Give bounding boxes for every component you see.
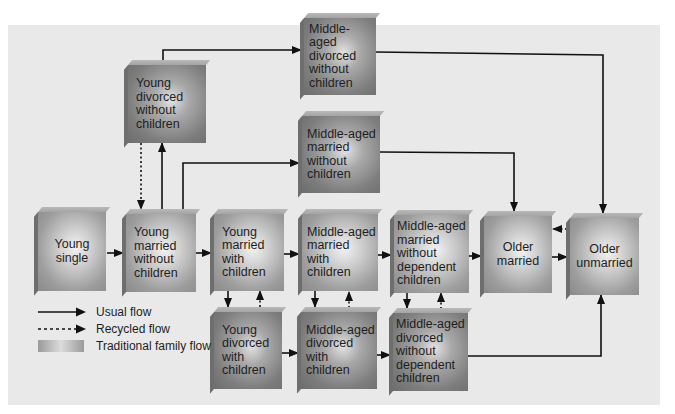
node-label: Young divorced with children: [214, 324, 269, 378]
node-young-married-without-children: Young married without children: [122, 209, 196, 292]
node-label: Middle-aged married with children: [302, 226, 376, 280]
node-label: Middle-aged married without children: [302, 128, 376, 182]
legend-recycled-flow: Recycled flow: [38, 320, 211, 337]
gradient-swatch-icon: [38, 340, 84, 352]
node-middle-aged-married-without-dependent-children: Middle-aged married without dependent ch…: [390, 210, 469, 293]
legend-label: Usual flow: [96, 305, 151, 319]
node-label: Middle-aged divorced with children: [301, 324, 375, 378]
node-label: Young divorced without children: [128, 77, 183, 131]
solid-arrow-icon: [38, 306, 88, 318]
node-label: Young married without children: [126, 226, 178, 280]
node-label: Older married: [484, 241, 552, 268]
node-young-single: Young single: [34, 207, 106, 291]
legend: Usual flow Recycled flow Traditional fam…: [38, 303, 211, 354]
node-middle-aged-married-with-children: Middle-aged married with children: [298, 209, 378, 291]
node-label: Young single: [38, 238, 106, 265]
node-label: Young married with children: [214, 226, 266, 280]
node-label: Middle-aged divorced without children: [304, 23, 376, 91]
node-label: Middle-aged divorced without dependent c…: [393, 318, 465, 386]
node-middle-aged-divorced-without-children: Middle-aged divorced without children: [300, 13, 376, 95]
dashed-arrow-icon: [38, 323, 88, 335]
legend-label: Recycled flow: [96, 322, 170, 336]
node-young-divorced-without-children: Young divorced without children: [124, 60, 206, 143]
legend-label: Traditional family flow: [96, 339, 211, 353]
legend-usual-flow: Usual flow: [38, 303, 211, 320]
node-young-married-with-children: Young married with children: [210, 209, 284, 291]
node-young-divorced-with-children: Young divorced with children: [210, 307, 282, 389]
node-label: Older unmarried: [570, 243, 639, 270]
node-label: Middle-aged married without dependent ch…: [394, 220, 466, 288]
legend-traditional-flow: Traditional family flow: [38, 337, 211, 354]
node-older-married: Older married: [480, 211, 552, 293]
node-older-unmarried: Older unmarried: [566, 213, 639, 295]
node-middle-aged-divorced-without-dependent-children: Middle-aged divorced without dependent c…: [389, 308, 468, 391]
node-middle-aged-divorced-with-children: Middle-aged divorced with children: [297, 307, 377, 389]
node-middle-aged-married-without-children: Middle-aged married without children: [298, 111, 380, 193]
